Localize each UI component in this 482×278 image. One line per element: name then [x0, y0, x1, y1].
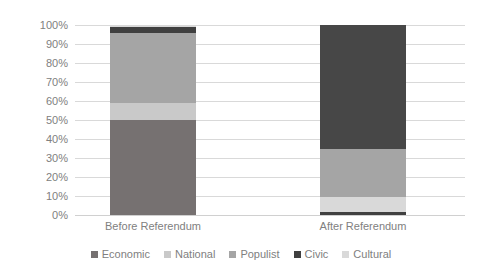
- legend-item-populist[interactable]: Populist: [229, 248, 279, 260]
- stacked-bar-chart: 100%90%80%70%60%50%40%30%20%10%0% Before…: [0, 0, 482, 278]
- bar-segment-civic[interactable]: [110, 27, 196, 33]
- legend-label: Cultural: [353, 248, 391, 260]
- bar-after-referendum[interactable]: [320, 25, 406, 215]
- legend-label: Populist: [240, 248, 279, 260]
- category-label-before-referendum: Before Referendum: [78, 219, 228, 233]
- y-tick-label-50: 50%: [0, 115, 68, 126]
- bar-segment-populist[interactable]: [320, 149, 406, 197]
- bar-segment-national[interactable]: [110, 103, 196, 120]
- y-tick-label-40: 40%: [0, 134, 68, 145]
- bar-segment-civic[interactable]: [320, 212, 406, 215]
- legend-item-civic[interactable]: Civic: [294, 248, 329, 260]
- legend-label: Economic: [102, 248, 150, 260]
- gridline-0: [75, 215, 465, 216]
- x-axis-category-labels: Before Referendum After Referendum: [75, 219, 465, 237]
- bar-segment-cultural[interactable]: [320, 197, 406, 212]
- y-tick-label-70: 70%: [0, 77, 68, 88]
- y-tick-label-90: 90%: [0, 39, 68, 50]
- y-tick-label-0: 0%: [0, 210, 68, 221]
- bar-segment-economic[interactable]: [320, 25, 406, 149]
- legend-item-national[interactable]: National: [164, 248, 215, 260]
- chart-legend: EconomicNationalPopulistCivicCultural: [0, 248, 482, 260]
- legend-swatch-civic-icon: [294, 251, 301, 258]
- legend-label: Civic: [305, 248, 329, 260]
- legend-swatch-economic-icon: [91, 251, 98, 258]
- y-axis: 100%90%80%70%60%50%40%30%20%10%0%: [0, 25, 68, 215]
- y-tick-label-20: 20%: [0, 172, 68, 183]
- legend-swatch-populist-icon: [229, 251, 236, 258]
- legend-item-cultural[interactable]: Cultural: [342, 248, 391, 260]
- y-tick-label-80: 80%: [0, 58, 68, 69]
- y-tick-label-10: 10%: [0, 191, 68, 202]
- bar-segment-populist[interactable]: [110, 33, 196, 103]
- legend-label: National: [175, 248, 215, 260]
- legend-item-economic[interactable]: Economic: [91, 248, 150, 260]
- bar-segment-economic[interactable]: [110, 120, 196, 215]
- y-tick-label-30: 30%: [0, 153, 68, 164]
- category-label-after-referendum: After Referendum: [288, 219, 438, 233]
- bar-segment-cultural[interactable]: [110, 25, 196, 27]
- y-tick-label-100: 100%: [0, 20, 68, 31]
- y-tick-label-60: 60%: [0, 96, 68, 107]
- bar-before-referendum[interactable]: [110, 25, 196, 215]
- legend-swatch-cultural-icon: [342, 251, 349, 258]
- legend-swatch-national-icon: [164, 251, 171, 258]
- plot-area: [75, 25, 465, 215]
